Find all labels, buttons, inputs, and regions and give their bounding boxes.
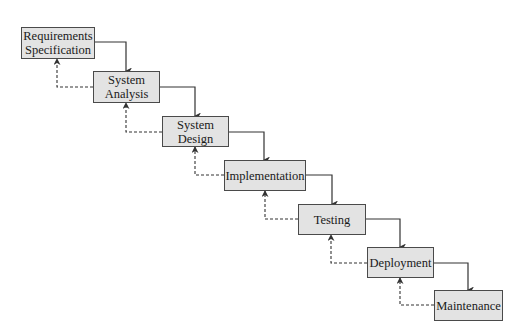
stage-system-analysis: System Analysis [93, 71, 160, 103]
stage-maintenance: Maintenance [434, 290, 503, 321]
feedback-arrow-implementation-to-design [195, 147, 224, 175]
forward-arrow-analysis-to-design [160, 87, 195, 116]
waterfall-diagram: Requirements Specification System Analys… [0, 0, 522, 336]
feedback-arrow-design-to-analysis [126, 103, 162, 132]
forward-arrow-requirements-to-analysis [95, 42, 126, 71]
forward-arrow-design-to-implementation [229, 132, 264, 160]
stage-system-design: System Design [162, 116, 229, 147]
stage-implementation: Implementation [224, 160, 306, 191]
feedback-arrow-analysis-to-requirements [57, 59, 93, 87]
forward-arrow-implementation-to-testing [306, 175, 332, 204]
stage-requirements-specification: Requirements Specification [21, 27, 95, 59]
forward-arrow-testing-to-deployment [366, 219, 400, 247]
stage-deployment: Deployment [367, 247, 434, 278]
forward-arrow-deployment-to-maintenance [434, 263, 468, 290]
feedback-arrow-testing-to-implementation [265, 191, 298, 219]
feedback-arrow-deployment-to-testing [331, 235, 367, 263]
stage-testing: Testing [298, 204, 366, 235]
feedback-arrow-maintenance-to-deployment [400, 278, 434, 305]
